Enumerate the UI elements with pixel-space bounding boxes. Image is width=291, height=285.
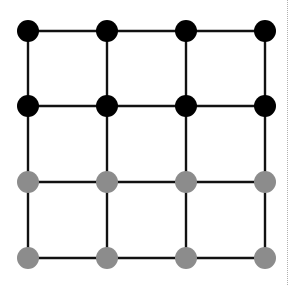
- edges: [28, 31, 265, 258]
- node-r2-c3: [175, 95, 197, 117]
- node-r4-c4: [254, 247, 276, 269]
- node-r2-c2: [96, 95, 118, 117]
- node-r3-c3: [175, 171, 197, 193]
- node-r3-c2: [96, 171, 118, 193]
- dotted-divider: [287, 0, 288, 285]
- node-r2-c4: [254, 95, 276, 117]
- node-r2-c1: [17, 95, 39, 117]
- node-r1-c3: [175, 20, 197, 42]
- node-r1-c2: [96, 20, 118, 42]
- nodes: [17, 20, 276, 269]
- node-r4-c2: [96, 247, 118, 269]
- node-r1-c4: [254, 20, 276, 42]
- node-r4-c3: [175, 247, 197, 269]
- node-r3-c1: [17, 171, 39, 193]
- node-r3-c4: [254, 171, 276, 193]
- node-r1-c1: [17, 20, 39, 42]
- node-r4-c1: [17, 247, 39, 269]
- grid-graph-diagram: [0, 0, 291, 285]
